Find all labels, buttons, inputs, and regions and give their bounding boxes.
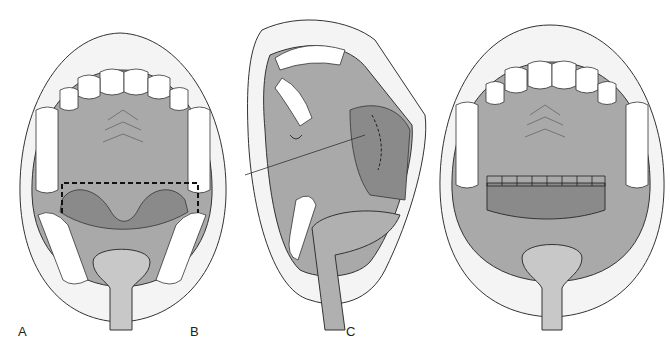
panel-label-a: A	[18, 324, 27, 339]
panel-label-b: B	[190, 324, 199, 339]
illustration	[0, 0, 670, 350]
panel-c	[440, 25, 664, 330]
panel-a	[20, 33, 226, 330]
panel-b	[245, 20, 426, 330]
panel-label-c: C	[346, 324, 355, 339]
